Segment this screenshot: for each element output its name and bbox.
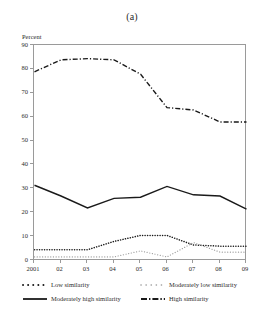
legend-item: Moderately high similarity [22, 295, 121, 303]
y-axis-tick-label: 50 [4, 136, 28, 143]
x-axis-tick-mark [86, 260, 87, 263]
series-line [35, 59, 247, 122]
chart-legend: Low similarityModerately low similarityM… [0, 281, 264, 315]
x-axis-tick-mark [113, 260, 114, 263]
y-axis-tick-label: 80 [4, 64, 28, 71]
x-axis-tick-label: 09 [242, 265, 249, 273]
y-axis-tick-label: 30 [4, 184, 28, 191]
x-axis-tick-label: 05 [136, 265, 143, 273]
x-axis-tick-mark [33, 260, 34, 263]
series-layer [34, 45, 247, 261]
x-axis-tick-mark [192, 260, 193, 263]
y-axis-tick-label: 0 [4, 256, 28, 263]
y-axis-tick-label: 60 [4, 112, 28, 119]
x-axis-tick-label: 07 [189, 265, 196, 273]
x-axis-tick-mark [139, 260, 140, 263]
x-axis-tick-label: 06 [162, 265, 169, 273]
legend-swatch-dashed-light-icon [140, 281, 166, 289]
legend-swatch-dotted-icon [22, 281, 48, 289]
series-line [35, 235, 247, 249]
y-axis-tick-label: 10 [4, 232, 28, 239]
legend-swatch-dash-dot-icon [140, 295, 166, 303]
y-axis-label: Percent [22, 33, 42, 40]
legend-item: High similarity [140, 295, 209, 303]
x-axis-tick-label: 03 [83, 265, 90, 273]
legend-item-label: Low similarity [51, 281, 89, 289]
legend-item-label: High similarity [169, 295, 209, 303]
x-axis-tick-mark [245, 260, 246, 263]
x-axis-tick-mark [219, 260, 220, 263]
legend-item-label: Moderately high similarity [51, 295, 121, 303]
y-axis-tick-label: 90 [4, 41, 28, 48]
series-line [35, 185, 247, 209]
x-axis-tick-label: 2001 [27, 265, 40, 273]
x-axis-tick-label: 02 [56, 265, 63, 273]
x-axis-tick-mark [166, 260, 167, 263]
x-axis-tick-label: 08 [215, 265, 222, 273]
legend-item-label: Moderately low similarity [169, 281, 237, 289]
y-axis-tick-label: 70 [4, 88, 28, 95]
chart-figure: (a) Percent 0102030405060708090 20010203… [0, 0, 264, 325]
y-axis-tick-label: 20 [4, 208, 28, 215]
x-axis-tick-mark [60, 260, 61, 263]
plot-area [33, 44, 246, 260]
panel-title: (a) [0, 11, 264, 22]
y-axis-tick-label: 40 [4, 160, 28, 167]
legend-item: Low similarity [22, 281, 89, 289]
x-axis-tick-label: 04 [109, 265, 116, 273]
legend-item: Moderately low similarity [140, 281, 237, 289]
legend-swatch-solid-icon [22, 295, 48, 303]
